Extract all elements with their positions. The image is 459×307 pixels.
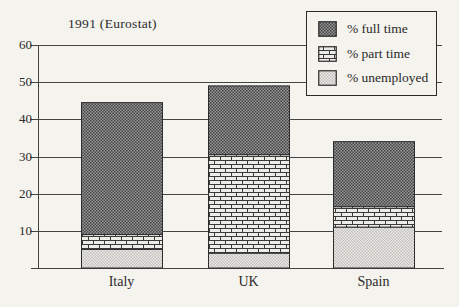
x-axis-label-italy: Italy	[77, 274, 167, 290]
chart-title: 1991 (Eurostat)	[68, 16, 157, 32]
y-axis-label-50: 50	[0, 75, 32, 89]
y-axis-label-30: 30	[0, 150, 32, 164]
bar-segment-uk-dark-checker	[209, 86, 290, 155]
bar-segment-spain-dark-checker	[334, 142, 415, 207]
y-axis-label-60: 60	[0, 38, 32, 52]
x-axis-label-spain: Spain	[329, 274, 419, 290]
legend-swatch-icon-dark-checker	[318, 21, 337, 37]
legend-swatch-icon-brick	[318, 46, 337, 62]
bar-segment-uk-brick	[209, 155, 290, 253]
legend-item: % part time	[318, 46, 436, 62]
scanned-stacked-bar-chart-figure: 1991 (Eurostat) 102030405060 ItalyUKSpai…	[0, 0, 459, 307]
legend-item-label: % full time	[347, 21, 408, 37]
bar-segment-spain-brick	[334, 207, 415, 227]
legend-item: % unemployed	[318, 70, 436, 86]
legend-item-label: % part time	[347, 46, 410, 62]
legend-item-label: % unemployed	[347, 70, 428, 86]
bar-segment-italy-brick	[82, 235, 163, 250]
bar-segment-uk-light-checker	[209, 253, 290, 268]
bar-segment-italy-dark-checker	[82, 103, 163, 235]
legend: % full time% part time% unemployed	[306, 11, 437, 96]
bar-segment-spain-light-checker	[334, 227, 415, 268]
y-axis-label-20: 20	[0, 187, 32, 201]
legend-swatch-icon-light-checker	[318, 70, 337, 86]
x-axis-label-uk: UK	[204, 274, 294, 290]
y-axis-label-10: 10	[0, 224, 32, 238]
y-axis-label-40: 40	[0, 112, 32, 126]
bar-segment-italy-light-checker	[82, 249, 163, 268]
legend-item: % full time	[318, 21, 436, 37]
